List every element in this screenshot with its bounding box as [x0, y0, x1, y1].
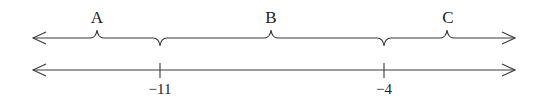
region-label-a: A: [91, 8, 104, 27]
region-brace-line: [33, 30, 515, 46]
tick-label-neg11: −11: [149, 81, 172, 97]
number-line: [33, 63, 515, 78]
number-line-diagram: A B C −11 −4: [0, 0, 541, 106]
region-label-c: C: [442, 8, 453, 27]
brace-path: [33, 30, 515, 46]
diagram-canvas: A B C −11 −4: [0, 0, 541, 106]
tick-label-neg4: −4: [376, 81, 392, 97]
region-label-b: B: [265, 8, 276, 27]
